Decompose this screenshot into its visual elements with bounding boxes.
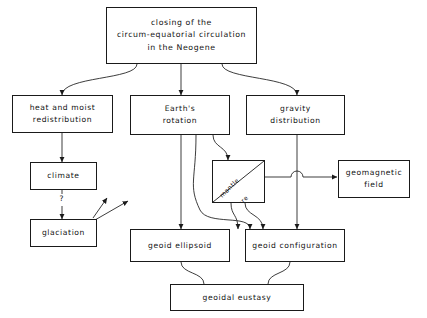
edge-mantle-core-to-geoid-configuration-2 xyxy=(245,203,263,229)
edge-label-question-mark: ? xyxy=(58,194,65,203)
flowchart-canvas: closing of the circum-equatorial circula… xyxy=(0,0,427,318)
edge-mantle-core-to-geomagnetic xyxy=(265,171,337,177)
node-glaciation[interactable]: glaciation xyxy=(30,219,97,247)
heat-line-2: redistribution xyxy=(33,114,92,126)
rotation-line-2: rotation xyxy=(163,115,198,127)
node-heat-and-moist-redistribution[interactable]: heat and moist redistribution xyxy=(12,95,113,133)
gravity-line-2: distribution xyxy=(270,115,320,127)
node-gravity-distribution[interactable]: gravity distribution xyxy=(246,95,345,135)
edge-geoid-configuration-to-eustasy xyxy=(268,262,290,284)
title-line-1: closing of the xyxy=(151,17,212,29)
title-line-3: in the Neogene xyxy=(147,42,215,54)
edge-glaciation-diagonal-1 xyxy=(93,198,107,218)
node-geomagnetic-field[interactable]: geomagnetic field xyxy=(338,160,410,198)
node-earths-rotation[interactable]: Earth's rotation xyxy=(130,95,230,135)
node-closing-circum-equatorial-circulation[interactable]: closing of the circum-equatorial circula… xyxy=(106,7,257,64)
geoid-configuration-label: geoid configuration xyxy=(252,240,337,252)
edge-top-to-heat xyxy=(62,64,137,95)
geomagnetic-line-1: geomagnetic xyxy=(346,167,402,179)
node-mantle-core[interactable]: mantle core xyxy=(212,160,265,203)
edge-geoid-ellipsoid-to-eustasy xyxy=(181,262,204,284)
edge-top-to-gravity xyxy=(222,64,297,95)
rotation-line-1: Earth's xyxy=(165,103,196,115)
climate-label: climate xyxy=(47,170,79,182)
edge-glaciation-diagonal-2 xyxy=(95,201,128,220)
heat-line-1: heat and moist xyxy=(30,102,96,114)
node-geoid-configuration[interactable]: geoid configuration xyxy=(245,229,345,262)
node-geoid-ellipsoid[interactable]: geoid ellipsoid xyxy=(130,229,230,262)
glaciation-label: glaciation xyxy=(42,227,85,239)
geoidal-eustasy-label: geoidal eustasy xyxy=(203,292,272,304)
geomagnetic-line-2: field xyxy=(364,179,383,191)
gravity-line-1: gravity xyxy=(280,103,311,115)
node-geoidal-eustasy[interactable]: geoidal eustasy xyxy=(170,284,304,311)
edge-mantle-core-to-geoid-configuration-1 xyxy=(231,203,238,229)
title-line-2: circum-equatorial circulation xyxy=(117,29,246,41)
node-climate[interactable]: climate xyxy=(30,162,97,190)
edge-rotation-to-mantle-core xyxy=(213,135,228,160)
geoid-ellipsoid-label: geoid ellipsoid xyxy=(148,240,212,252)
